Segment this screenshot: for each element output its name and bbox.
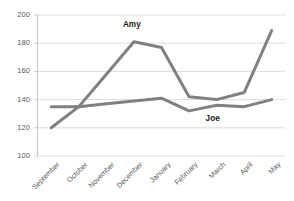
series-line-amy [51, 31, 271, 128]
y-tick-label: 140 [6, 95, 30, 104]
line-chart: 200180160140120100 SeptemberOctoberNovem… [0, 0, 294, 201]
series-label-amy: Amy [123, 20, 141, 29]
series-label-joe: Joe [206, 114, 220, 123]
y-tick-label: 160 [6, 66, 30, 75]
y-tick-label: 120 [6, 123, 30, 132]
y-tick-label: 200 [6, 10, 30, 19]
series-lines [51, 31, 271, 128]
y-tick-label: 100 [6, 151, 30, 160]
axis-lines [35, 15, 38, 156]
y-tick-label: 180 [6, 38, 30, 47]
